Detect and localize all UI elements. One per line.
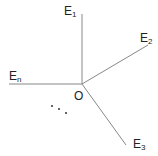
- ray-e2: [82, 45, 148, 84]
- star-diagram: E1E2E3En O: [0, 0, 158, 156]
- labels-group: E1E2E3En: [9, 4, 153, 152]
- ellipsis-dot: [51, 105, 53, 107]
- label-e2: E2: [140, 31, 153, 46]
- ellipsis-dot: [65, 112, 67, 114]
- rays-group: [9, 14, 148, 145]
- label-en: En: [9, 69, 21, 84]
- ellipsis-dots: [51, 105, 67, 114]
- label-e3: E3: [133, 137, 146, 152]
- ellipsis-dot: [58, 108, 60, 110]
- label-e1: E1: [64, 4, 77, 19]
- ray-e3: [82, 84, 126, 145]
- diagram-canvas: E1E2E3En O: [0, 0, 158, 156]
- center-label-o: O: [74, 89, 83, 103]
